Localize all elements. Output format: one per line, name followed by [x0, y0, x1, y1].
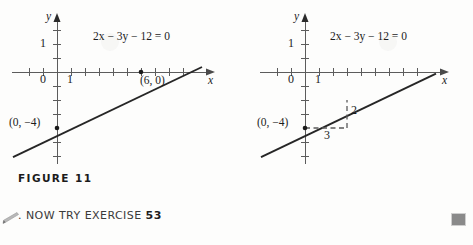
equation-label-f12: 2x − 3y − 12 = 0	[330, 30, 407, 42]
point-label-x-intercept-f11: (6, 0)	[140, 74, 165, 86]
figure-12-plot	[238, 2, 473, 172]
y-axis-label-f12: y	[294, 10, 299, 22]
x-tick-label-f12: 1	[315, 72, 321, 87]
origin-label-f11: 0	[40, 72, 46, 87]
now-try-prefix: . NOW TRY EXERCISE	[18, 209, 146, 222]
figure-12: 2x − 3y − 12 = 0 0 1 1 x y (0, −4) 3 2 F…	[238, 0, 473, 200]
figure-11-caption: FIGURE 11	[18, 172, 92, 184]
origin-label-f12: 0	[288, 72, 294, 87]
x-axis-label-f12: x	[442, 74, 447, 86]
pencil-icon	[1, 212, 19, 224]
y-axis-arrowhead	[54, 13, 61, 22]
y-axis-arrowhead	[302, 13, 309, 22]
y-tick-label-f11: 1	[40, 36, 46, 51]
slope-rise-label: 2	[351, 103, 357, 118]
point-y-intercept	[303, 126, 308, 131]
x-axis-label-f11: x	[208, 74, 213, 86]
end-of-section-marker	[451, 213, 466, 226]
y-axis-label-f11: y	[46, 10, 51, 22]
equation-label-f11: 2x − 3y − 12 = 0	[93, 30, 170, 42]
figure-11-plot	[0, 2, 236, 172]
point-y-intercept	[55, 126, 60, 131]
point-label-y-intercept-f12: (0, −4)	[257, 116, 288, 128]
y-tick-label-f12: 1	[288, 36, 294, 51]
textbook-figure-page: 2x − 3y − 12 = 0 0 1 1 x y (6, 0) (0, −4…	[0, 0, 473, 245]
now-try-bar: . NOW TRY EXERCISE 53	[0, 203, 473, 245]
slope-run-label: 3	[324, 128, 330, 143]
now-try-number: 53	[146, 209, 162, 222]
slope-triangle	[305, 100, 347, 128]
now-try-exercise-text: . NOW TRY EXERCISE 53	[18, 209, 162, 222]
point-label-y-intercept-f11: (0, −4)	[9, 116, 40, 128]
figure-11: 2x − 3y − 12 = 0 0 1 1 x y (6, 0) (0, −4…	[0, 0, 236, 200]
x-tick-label-f11: 1	[67, 72, 73, 87]
